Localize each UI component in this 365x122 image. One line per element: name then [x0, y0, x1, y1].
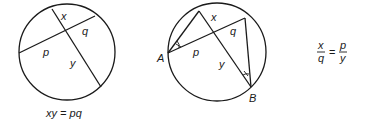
intersecting-chords-diagram: x q p y xy = pq x q p y A B x q = p y: [0, 0, 365, 122]
formula-right-denominator: y: [339, 52, 347, 64]
label-q: q: [82, 25, 89, 37]
ratio-formula: x q = p y: [317, 39, 347, 64]
label-point-a: A: [156, 52, 164, 64]
label-p: p: [42, 46, 49, 58]
label-x: x: [210, 11, 217, 23]
formula-equals: =: [329, 46, 335, 58]
angle-mark-a: [176, 44, 181, 47]
chord-xy: [52, 9, 101, 87]
angle-arc-b: [243, 74, 249, 75]
label-point-b: B: [249, 92, 256, 104]
caption-xy-equals-pq: xy = pq: [45, 107, 83, 119]
formula-right-numerator: p: [339, 39, 346, 51]
label-q: q: [230, 25, 237, 37]
left-figure: x q p y xy = pq: [19, 4, 115, 119]
formula-left-numerator: x: [317, 39, 324, 51]
segment-right-b: [245, 18, 251, 87]
label-y: y: [218, 58, 226, 70]
formula-left-denominator: q: [318, 52, 325, 64]
right-figure: x q p y A B: [156, 3, 266, 104]
label-y: y: [69, 57, 77, 69]
label-p: p: [192, 46, 199, 58]
chord-xy: [199, 11, 251, 87]
label-x: x: [60, 10, 67, 22]
